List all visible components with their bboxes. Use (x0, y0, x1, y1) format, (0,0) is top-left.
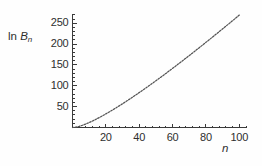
y-axis-title: ln Bn (8, 30, 32, 44)
y-axis-title-symbol: B (20, 30, 28, 42)
x-tick-label: 100 (222, 131, 256, 143)
y-tick-label: 150 (51, 58, 69, 70)
data-curve-group (73, 15, 240, 127)
x-axis-title: n (222, 142, 228, 154)
x-tick-label: 60 (156, 131, 190, 143)
chart-figure: ln Bn n 50100150200250 20406080100 (0, 0, 262, 166)
y-axis-title-prefix: ln (8, 30, 20, 42)
x-tick-label: 80 (189, 131, 223, 143)
x-tick-label: 20 (89, 131, 123, 143)
y-tick-label: 250 (51, 16, 69, 28)
y-tick-label: 100 (51, 79, 69, 91)
x-axis-title-text: n (222, 142, 228, 154)
y-tick-label: 200 (51, 37, 69, 49)
y-tick-label: 50 (57, 100, 69, 112)
y-axis-title-subscript: n (28, 35, 32, 44)
data-series-line (73, 15, 240, 127)
x-tick-label: 40 (122, 131, 156, 143)
